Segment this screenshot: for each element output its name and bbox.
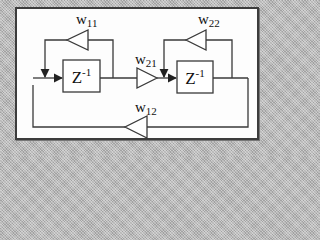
gain-label-w12: w12 xyxy=(135,100,157,117)
delay-label-z2: Z-1 xyxy=(177,68,213,87)
gain-triangle-w11 xyxy=(67,30,88,50)
gain-triangle-w22 xyxy=(186,30,206,50)
gain-label-w22: w22 xyxy=(198,12,220,29)
signal-flow-diagram xyxy=(0,0,268,156)
gain-triangle-w21 xyxy=(137,68,157,88)
gain-label-w11: w11 xyxy=(76,12,97,29)
delay-label-z1: Z-1 xyxy=(63,67,100,86)
gain-triangle-w12 xyxy=(125,116,147,138)
gain-label-w21: w21 xyxy=(135,52,157,69)
